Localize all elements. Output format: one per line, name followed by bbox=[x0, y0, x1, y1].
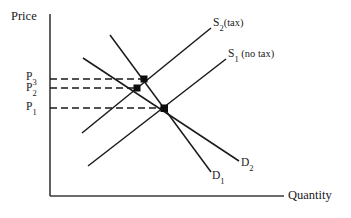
curve-label-s1-suffix: (no tax) bbox=[239, 48, 275, 59]
curve-label-d1: D1 bbox=[212, 170, 225, 184]
x-axis-label: Quantity bbox=[288, 189, 332, 202]
curve-label-s2-suffix: (tax) bbox=[224, 17, 244, 28]
equilibrium-point-e1 bbox=[161, 105, 169, 113]
curve-label-d2-subscript: 2 bbox=[249, 163, 253, 173]
price-label-p2: P2 bbox=[26, 82, 37, 96]
equilibrium-point-e2 bbox=[134, 85, 141, 92]
price-label-p2-subscript: 2 bbox=[32, 88, 36, 98]
curve-label-d1-subscript: 1 bbox=[220, 176, 224, 186]
price-label-p1: P1 bbox=[26, 101, 37, 115]
demand-curve-d1 bbox=[110, 35, 211, 172]
price-label-p1-subscript: 1 bbox=[32, 107, 36, 117]
curve-label-d2: D2 bbox=[241, 157, 254, 171]
curve-label-s1: S1 (no tax) bbox=[228, 48, 274, 62]
curve-label-s2: S2(tax) bbox=[213, 17, 243, 31]
diagram-canvas: Price Quantity P3 P2 P1 S2(tax) S1 (no t… bbox=[0, 0, 351, 218]
equilibrium-point-e3 bbox=[141, 76, 148, 83]
y-axis-label: Price bbox=[11, 10, 37, 23]
curve-label-s1-subscript: 1 bbox=[234, 54, 238, 64]
curve-label-s2-subscript: 2 bbox=[219, 23, 223, 33]
supply-demand-svg bbox=[0, 0, 351, 218]
